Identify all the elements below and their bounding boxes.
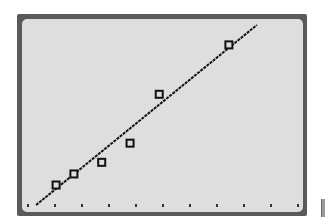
x-tick (162, 204, 164, 207)
x-tick (27, 204, 29, 207)
x-tick (108, 204, 110, 207)
scatter-plot (22, 19, 303, 212)
x-tick (189, 204, 191, 207)
calculator-screen-frame (17, 14, 307, 216)
x-tick (270, 204, 272, 207)
x-tick (81, 204, 83, 207)
data-point-marker (156, 91, 163, 98)
data-points (53, 41, 233, 188)
data-point-marker (98, 159, 105, 166)
x-tick (135, 204, 137, 207)
data-point-marker (127, 140, 134, 147)
adjacent-edge-fragment (321, 199, 325, 217)
data-point-marker (53, 182, 60, 189)
data-point-marker (225, 41, 232, 48)
x-axis-ticks (27, 204, 299, 207)
graph-screen (22, 19, 303, 212)
x-tick (297, 204, 299, 207)
x-tick (54, 204, 56, 207)
data-point-marker (70, 170, 77, 177)
regression-line (36, 25, 257, 205)
x-tick (216, 204, 218, 207)
x-tick (243, 204, 245, 207)
